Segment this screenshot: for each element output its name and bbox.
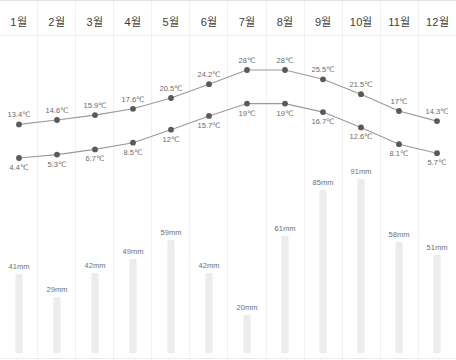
high-temperature-point[interactable] (16, 122, 22, 128)
high-temperature-value-label: 28℃ (277, 56, 294, 65)
low-temperature-point[interactable] (54, 152, 60, 158)
low-temperature-point[interactable] (358, 125, 364, 131)
low-temperature-point[interactable] (320, 109, 326, 115)
low-temperature-line (19, 104, 437, 158)
high-temperature-point[interactable] (282, 67, 288, 73)
low-temperature-point[interactable] (130, 140, 136, 146)
low-temperature-value-label: 4.4℃ (10, 163, 29, 172)
high-temperature-point[interactable] (244, 67, 250, 73)
temperature-line-layer: 13.4℃14.6℃15.9℃17.6℃20.5℃24.2℃28℃28℃25.5… (0, 1, 456, 360)
high-temperature-value-label: 28℃ (239, 56, 256, 65)
high-temperature-value-label: 25.5℃ (311, 65, 334, 74)
high-temperature-line (19, 70, 437, 124)
high-temperature-point[interactable] (168, 95, 174, 101)
high-temperature-point[interactable] (54, 117, 60, 123)
high-temperature-value-label: 20.5℃ (159, 84, 182, 93)
high-temperature-point[interactable] (92, 112, 98, 118)
low-temperature-value-label: 5.3℃ (48, 160, 67, 169)
high-temperature-point[interactable] (434, 118, 440, 124)
low-temperature-point[interactable] (16, 155, 22, 161)
low-temperature-point[interactable] (244, 101, 250, 107)
low-temperature-point[interactable] (168, 127, 174, 133)
high-temperature-value-label: 14.3℃ (425, 107, 448, 116)
low-temperature-value-label: 19℃ (239, 109, 256, 118)
high-temperature-point[interactable] (320, 76, 326, 82)
low-temperature-point[interactable] (282, 101, 288, 107)
low-temperature-point[interactable] (92, 147, 98, 153)
high-temperature-value-label: 17.6℃ (121, 95, 144, 104)
low-temperature-value-label: 19℃ (277, 109, 294, 118)
high-temperature-value-label: 14.6℃ (45, 106, 68, 115)
low-temperature-point[interactable] (396, 141, 402, 147)
low-temperature-value-label: 5.7℃ (428, 158, 447, 167)
low-temperature-value-label: 8.5℃ (124, 148, 143, 157)
high-temperature-value-label: 24.2℃ (197, 70, 220, 79)
high-temperature-value-label: 15.9℃ (83, 101, 106, 110)
low-temperature-value-label: 12.6℃ (349, 132, 372, 141)
low-temperature-value-label: 6.7℃ (86, 154, 105, 163)
low-temperature-point[interactable] (206, 113, 212, 119)
high-temperature-value-label: 21.5℃ (349, 80, 372, 89)
low-temperature-value-label: 12℃ (163, 135, 180, 144)
high-temperature-value-label: 13.4℃ (7, 110, 30, 119)
high-temperature-value-label: 17℃ (391, 97, 408, 106)
high-temperature-point[interactable] (130, 106, 136, 112)
low-temperature-point[interactable] (434, 150, 440, 156)
high-temperature-point[interactable] (206, 81, 212, 87)
high-temperature-point[interactable] (396, 108, 402, 114)
high-temperature-point[interactable] (358, 91, 364, 97)
low-temperature-value-label: 16.7℃ (311, 117, 334, 126)
low-temperature-value-label: 8.1℃ (390, 149, 409, 158)
low-temperature-value-label: 15.7℃ (197, 121, 220, 130)
